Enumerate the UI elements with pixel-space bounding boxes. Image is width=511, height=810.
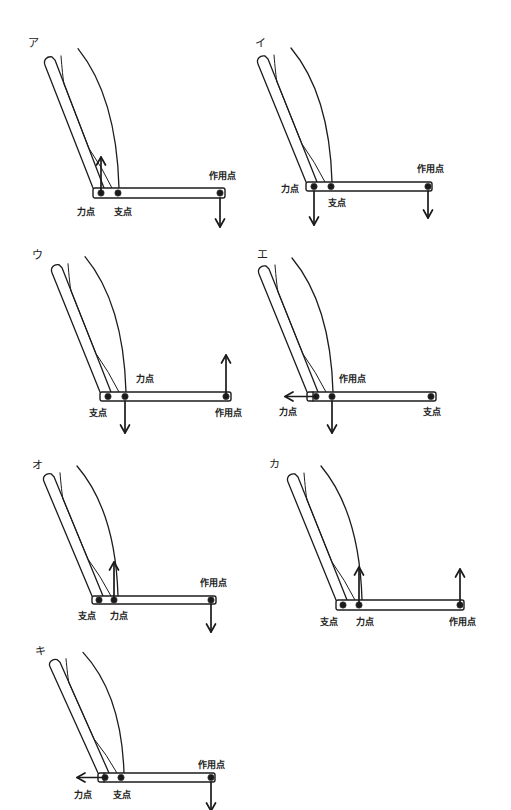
muscle-inner-line (60, 473, 111, 596)
arrow-down-icon (121, 401, 130, 433)
load-point-dot (217, 190, 223, 196)
effort-point-label: 力点 (279, 406, 297, 417)
fulcrum-point-dot (118, 774, 124, 780)
load-point-label: 作用点 (449, 616, 476, 627)
arrow-down-icon (207, 604, 216, 632)
load-point-dot (425, 183, 431, 189)
fulcrum-point-dot (96, 597, 102, 603)
fulcrum-point-label: 支点 (422, 406, 441, 417)
forearm-bar (98, 773, 215, 782)
load-point-dot (329, 393, 335, 399)
arm (51, 257, 126, 392)
arrow-up-icon (222, 355, 231, 397)
muscle-inner-line (275, 265, 326, 392)
forearm-bar (100, 392, 231, 401)
fulcrum-point-label: 支点 (112, 789, 131, 800)
arm (287, 466, 362, 600)
load-point-label: 作用点 (209, 170, 236, 181)
forearm-bar (306, 182, 432, 191)
figure-u-label: ウ (32, 249, 43, 262)
load-point-label: 作用点 (417, 163, 444, 174)
effort-point-label: 力点 (77, 206, 95, 217)
arrow-down-icon (216, 198, 225, 227)
effort-point-label: 力点 (281, 183, 299, 194)
figure-i-label: イ (255, 37, 266, 50)
figure-o: 支点 力点 作用点 (43, 466, 226, 632)
fulcrum-point-dot (428, 393, 434, 399)
muscle-inner-line (66, 659, 117, 773)
fulcrum-point-dot (105, 393, 111, 399)
figure-a-label: ア (28, 37, 39, 50)
effort-point-dot (311, 183, 317, 189)
lever-diagrams-page: ア イ ウ エ オ カ キ 力点 支点 作用点 (0, 0, 511, 810)
effort-point-label: 力点 (74, 789, 92, 800)
arm (44, 49, 119, 188)
arrow-down-icon (328, 401, 337, 433)
muscle-inner-line (68, 264, 119, 392)
figure-ki-label: キ (35, 645, 46, 658)
arrow-down-icon (424, 191, 433, 218)
arm (257, 48, 332, 182)
fulcrum-point-label: 支点 (88, 407, 107, 418)
forearm-bar (336, 600, 464, 610)
load-point-label: 作用点 (339, 373, 366, 384)
figure-u: 支点 力点 作用点 (51, 257, 241, 433)
fulcrum-point-label: 支点 (77, 610, 96, 621)
effort-point-dot (122, 393, 128, 399)
lever-diagrams-canvas: ア イ ウ エ オ カ キ 力点 支点 作用点 (0, 0, 511, 810)
arrow-down-icon (310, 191, 319, 225)
figure-ki: 力点 支点 作用点 (49, 652, 224, 810)
fulcrum-point-label: 支点 (327, 197, 346, 208)
arm (43, 466, 118, 596)
muscle-inner-line (304, 473, 355, 600)
effort-point-label: 力点 (356, 616, 374, 627)
load-point-label: 作用点 (200, 577, 227, 588)
load-point-label: 作用点 (215, 407, 242, 418)
forearm-bar (307, 392, 436, 401)
figure-e-label: エ (257, 248, 268, 261)
muscle-inner-line (61, 56, 112, 188)
effort-point-label: 力点 (136, 373, 154, 384)
fulcrum-point-label: 支点 (319, 616, 338, 627)
arm (258, 258, 333, 392)
figure-a: 力点 支点 作用点 (44, 49, 235, 227)
figure-i: 力点 支点 作用点 (257, 48, 443, 225)
muscle-inner-line (274, 55, 325, 182)
fulcrum-point-label: 支点 (113, 206, 132, 217)
figure-ka-label: カ (269, 458, 280, 471)
load-point-dot (208, 774, 214, 780)
forearm-bar (93, 188, 225, 198)
fulcrum-point-dot (340, 602, 346, 608)
figure-ka: 支点 力点 作用点 (287, 466, 475, 627)
load-point-label: 作用点 (198, 759, 225, 770)
fulcrum-point-dot (115, 190, 121, 196)
arrow-down-icon (207, 782, 216, 810)
arm (49, 652, 124, 773)
figure-o-label: オ (32, 459, 43, 472)
load-point-dot (208, 597, 214, 603)
fulcrum-point-dot (328, 183, 334, 189)
figure-e: 力点 作用点 支点 (258, 258, 441, 433)
effort-point-label: 力点 (110, 610, 128, 621)
